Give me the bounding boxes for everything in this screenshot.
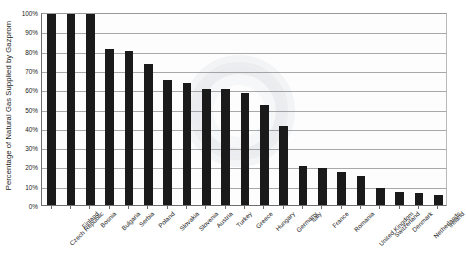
x-axis-tick-mark xyxy=(244,206,245,209)
bars-layer xyxy=(42,14,446,205)
bar xyxy=(318,168,327,205)
x-axis-tick-mark xyxy=(51,206,52,209)
y-axis-tick-label: 30% xyxy=(25,145,38,152)
x-axis-tick-mark xyxy=(321,206,322,209)
y-axis-title: Percentage of Natural Gas Supplied by Ga… xyxy=(0,0,18,210)
x-axis-tick-mark xyxy=(263,206,264,209)
y-axis-tick-label: 50% xyxy=(25,106,38,113)
bar xyxy=(105,49,114,205)
x-axis-tick-mark xyxy=(70,206,71,209)
bar xyxy=(125,51,134,205)
bar xyxy=(299,166,308,205)
y-axis-tick-label: 70% xyxy=(25,67,38,74)
x-axis-tick-mark xyxy=(302,206,303,209)
x-axis-tick-mark xyxy=(399,206,400,209)
x-axis-tick-mark xyxy=(418,206,419,209)
x-axis-tick-label: France xyxy=(331,210,350,229)
bar xyxy=(376,188,385,205)
bar xyxy=(241,93,250,205)
bar xyxy=(163,80,172,205)
x-axis-tick-mark xyxy=(109,206,110,209)
y-axis-tick-label: 20% xyxy=(25,164,38,171)
bar xyxy=(279,126,288,205)
y-axis-tick-label: 0% xyxy=(29,203,38,210)
x-axis-tick-label: Hungary xyxy=(274,210,296,232)
x-axis-tick-mark xyxy=(89,206,90,209)
x-axis-tick-label: Slovakia xyxy=(178,210,200,232)
x-axis-tick-mark xyxy=(225,206,226,209)
bar xyxy=(415,193,424,205)
bar xyxy=(260,105,269,205)
x-axis-tick-labels: Czech RepublicFinlandBosniaBulgariaSerbi… xyxy=(41,210,447,278)
bar xyxy=(144,64,153,205)
x-axis-tick-mark xyxy=(167,206,168,209)
y-axis-tick-labels: 0%10%20%30%40%50%60%70%80%90%100% xyxy=(18,0,40,210)
x-axis-tick-label: Poland xyxy=(157,210,176,229)
bar xyxy=(395,192,404,206)
bar xyxy=(183,83,192,205)
x-axis-tick-label: Ireland xyxy=(447,210,466,229)
x-axis-tick-mark xyxy=(205,206,206,209)
x-axis-tick-mark xyxy=(147,206,148,209)
y-axis-title-text: Percentage of Natural Gas Supplied by Ga… xyxy=(5,20,14,190)
bar xyxy=(434,195,443,205)
y-axis-tick-label: 100% xyxy=(22,10,38,17)
y-axis-tick-label: 10% xyxy=(25,183,38,190)
x-axis-tick-mark xyxy=(283,206,284,209)
x-axis-tick-mark xyxy=(360,206,361,209)
x-axis-tick-mark xyxy=(437,206,438,209)
x-axis-tick-mark xyxy=(379,206,380,209)
bar xyxy=(47,13,56,205)
bar xyxy=(221,89,230,205)
bar xyxy=(67,13,76,205)
x-axis-tick-label: Romania xyxy=(352,210,375,233)
x-axis-tick-mark xyxy=(341,206,342,209)
bar xyxy=(86,13,95,205)
x-axis-tick-label: Greece xyxy=(254,210,274,230)
y-axis-tick-label: 80% xyxy=(25,48,38,55)
x-axis-tick-mark xyxy=(128,206,129,209)
bar xyxy=(357,176,366,205)
y-axis-tick-label: 90% xyxy=(25,29,38,36)
y-axis-tick-label: 60% xyxy=(25,87,38,94)
y-axis-tick-label: 40% xyxy=(25,125,38,132)
bar xyxy=(337,172,346,205)
x-axis-tick-label: Turkey xyxy=(234,210,253,229)
plot-area xyxy=(41,13,447,206)
x-axis-tick-mark xyxy=(186,206,187,209)
bar xyxy=(202,89,211,205)
